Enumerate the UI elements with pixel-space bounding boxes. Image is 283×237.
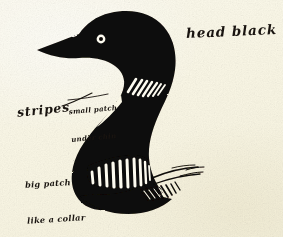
annotation-small-patch-line1: small patch: [68, 103, 117, 116]
annotation-small-patch-line2: under chin: [71, 131, 120, 144]
annotation-big-patch-line2: like a collar: [27, 212, 86, 228]
annotation-head-black: head black: [186, 22, 278, 40]
annotation-big-patch-like-a-collar: big patch like a collar: [23, 150, 87, 237]
sketch-page: head black stripes small patch under chi…: [0, 0, 283, 237]
annotation-big-patch-line1: big patch: [25, 175, 84, 191]
eye: [97, 35, 106, 44]
